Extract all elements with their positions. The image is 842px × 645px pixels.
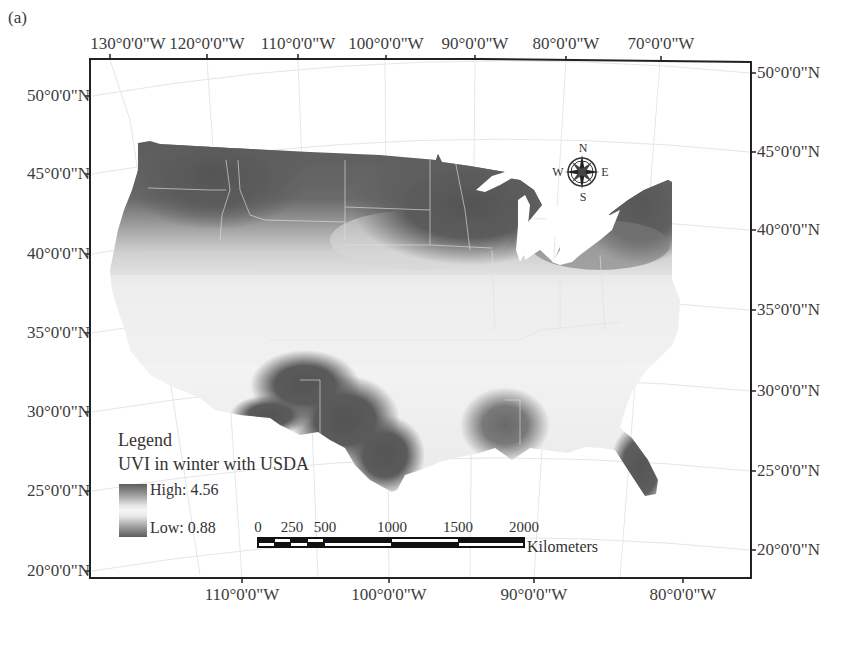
bottom-longitude-label: 100°0'0"W	[351, 585, 426, 605]
right-latitude-label: 20°0'0"N	[757, 540, 820, 560]
top-longitude-label: 110°0'0"W	[261, 34, 336, 54]
compass-west-label: W	[552, 165, 563, 180]
scale-tick-label: 2000	[509, 519, 539, 536]
left-latitude-label: 50°0'0"N	[27, 86, 90, 106]
bottom-longitude-label: 80°0'0"W	[650, 585, 717, 605]
right-latitude-label: 25°0'0"N	[757, 461, 820, 481]
right-latitude-label: 35°0'0"N	[757, 300, 820, 320]
map-canvas	[0, 0, 842, 645]
left-latitude-label: 20°0'0"N	[27, 561, 90, 581]
compass-north-label: N	[579, 141, 588, 156]
left-latitude-label: 40°0'0"N	[27, 244, 90, 264]
legend-high-label: High: 4.56	[150, 481, 218, 499]
compass-east-label: E	[601, 165, 608, 180]
right-latitude-label: 30°0'0"N	[757, 381, 820, 401]
scale-unit-label: Kilometers	[527, 538, 598, 556]
top-longitude-label: 120°0'0"W	[169, 34, 244, 54]
left-latitude-label: 25°0'0"N	[27, 481, 90, 501]
right-latitude-label: 45°0'0"N	[757, 142, 820, 162]
top-longitude-label: 100°0'0"W	[348, 34, 423, 54]
top-longitude-label: 130°0'0"W	[90, 34, 165, 54]
compass-south-label: S	[580, 190, 587, 205]
left-latitude-label: 35°0'0"N	[27, 323, 90, 343]
scale-bar	[257, 537, 525, 548]
scale-tick-label: 250	[281, 519, 304, 536]
left-latitude-label: 45°0'0"N	[27, 164, 90, 184]
bottom-longitude-label: 90°0'0"W	[501, 585, 568, 605]
legend-layer-name: UVI in winter with USDA	[118, 454, 309, 475]
top-longitude-label: 70°0'0"W	[628, 34, 695, 54]
top-longitude-label: 80°0'0"W	[533, 34, 600, 54]
compass-rose-icon	[565, 155, 599, 189]
right-latitude-label: 40°0'0"N	[757, 220, 820, 240]
top-longitude-label: 90°0'0"W	[442, 34, 509, 54]
legend-color-ramp	[119, 484, 147, 537]
bottom-longitude-label: 110°0'0"W	[205, 585, 280, 605]
scale-tick-label: 1000	[377, 519, 407, 536]
scale-tick-label: 1500	[443, 519, 473, 536]
right-latitude-label: 50°0'0"N	[757, 63, 820, 83]
left-latitude-label: 30°0'0"N	[27, 402, 90, 422]
legend-low-label: Low: 0.88	[150, 519, 216, 537]
legend-heading: Legend	[118, 430, 172, 451]
scale-tick-label: 0	[254, 519, 262, 536]
scale-tick-label: 500	[314, 519, 337, 536]
